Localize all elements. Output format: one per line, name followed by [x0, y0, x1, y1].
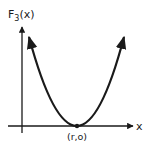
parabola-curve — [29, 37, 124, 126]
x-axis-label: x — [136, 120, 143, 133]
vertex-point — [75, 124, 79, 128]
y-axis-label: F3(x) — [8, 8, 35, 23]
vertex-label: (r,o) — [67, 131, 87, 142]
parabola-diagram: F3(x) x (r,o) — [0, 0, 149, 150]
